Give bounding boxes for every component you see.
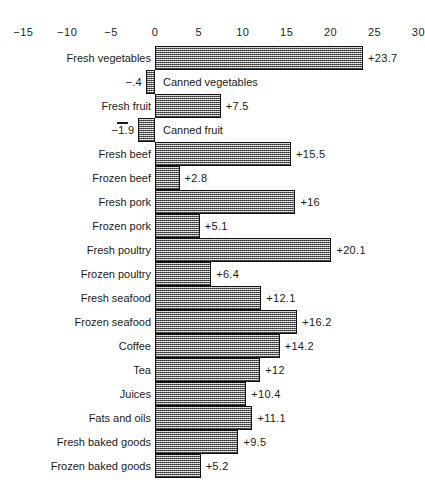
category-label: Coffee xyxy=(119,334,151,358)
value-label: +16 xyxy=(300,190,320,214)
bar xyxy=(155,358,260,382)
bar xyxy=(155,94,221,118)
value-label: +6.4 xyxy=(216,262,239,286)
bar-row: Juices+10.4 xyxy=(0,382,425,406)
x-axis-tick: 25 xyxy=(368,26,381,38)
value-label: +23.7 xyxy=(368,46,397,70)
value-label: +9.5 xyxy=(243,430,266,454)
bar xyxy=(155,166,180,190)
category-label: Fresh beef xyxy=(98,142,151,166)
bar-row: Fresh baked goods+9.5 xyxy=(0,430,425,454)
bar xyxy=(155,382,246,406)
bar-row: Coffee+14.2 xyxy=(0,334,425,358)
bar-row: Fresh poultry+20.1 xyxy=(0,238,425,262)
bar-row: Fresh seafood+12.1 xyxy=(0,286,425,310)
category-label: Frozen beef xyxy=(92,166,151,190)
category-label: Fresh baked goods xyxy=(57,430,151,454)
x-axis-tick: 15 xyxy=(280,26,293,38)
x-axis-tick: 30 xyxy=(412,26,425,38)
bar xyxy=(155,190,295,214)
bar xyxy=(155,262,211,286)
bar-row: Fresh vegetables+23.7 xyxy=(0,46,425,70)
value-label: +16.2 xyxy=(302,310,331,334)
value-label: +12 xyxy=(265,358,285,382)
x-axis-tick: −5 xyxy=(104,26,118,38)
category-label: Tea xyxy=(133,358,151,382)
category-label: Fresh fruit xyxy=(101,94,151,118)
bar xyxy=(155,310,297,334)
bar-row: Frozen seafood+16.2 xyxy=(0,310,425,334)
value-label: +11.1 xyxy=(257,406,286,430)
x-axis-tick: 20 xyxy=(324,26,337,38)
bar xyxy=(155,406,252,430)
x-axis-tick: 5 xyxy=(196,26,203,38)
x-axis: −15−10−5051015202530 xyxy=(0,0,425,44)
bar xyxy=(155,454,201,478)
category-label: Canned fruit xyxy=(163,118,223,142)
category-label: Fresh seafood xyxy=(81,286,151,310)
bar-row: Tea+12 xyxy=(0,358,425,382)
x-axis-tick: 0 xyxy=(152,26,159,38)
value-label: +14.2 xyxy=(285,334,314,358)
x-axis-tick: −15 xyxy=(13,26,33,38)
category-label: Canned vegetables xyxy=(163,70,258,94)
value-label: +5.1 xyxy=(205,214,228,238)
bar xyxy=(155,430,238,454)
value-label: +20.1 xyxy=(336,238,365,262)
bar-row: Fresh beef+15.5 xyxy=(0,142,425,166)
bar-row: Fats and oils+11.1 xyxy=(0,406,425,430)
x-axis-tick: 10 xyxy=(236,26,249,38)
plot-area: Fresh vegetables+23.7Canned vegetables−.… xyxy=(0,46,425,486)
category-label: Frozen pork xyxy=(92,214,151,238)
category-label: Frozen baked goods xyxy=(51,454,151,478)
value-label: +2.8 xyxy=(185,166,208,190)
category-label: Frozen seafood xyxy=(75,310,151,334)
value-label: +12.1 xyxy=(266,286,295,310)
value-label: +15.5 xyxy=(296,142,325,166)
category-label: Juices xyxy=(120,382,151,406)
bar xyxy=(155,214,200,238)
category-label: Fresh poultry xyxy=(87,238,151,262)
value-label: +7.5 xyxy=(226,94,249,118)
value-label: −1.9 xyxy=(111,118,134,142)
bar xyxy=(155,334,280,358)
bar-row: Frozen beef+2.8 xyxy=(0,166,425,190)
x-axis-tick: −10 xyxy=(57,26,77,38)
category-label: Frozen poultry xyxy=(81,262,151,286)
bar-row: Frozen pork+5.1 xyxy=(0,214,425,238)
bar xyxy=(155,46,363,70)
value-label: −.4 xyxy=(126,70,143,94)
bar-row: Canned fruit−1.9 xyxy=(0,118,425,142)
bar xyxy=(155,142,291,166)
bar-row: Fresh fruit+7.5 xyxy=(0,94,425,118)
bar-chart: −15−10−5051015202530 Fresh vegetables+23… xyxy=(0,0,425,500)
bar-row: Frozen baked goods+5.2 xyxy=(0,454,425,478)
bar-row: Canned vegetables−.4 xyxy=(0,70,425,94)
bar-row: Fresh pork+16 xyxy=(0,190,425,214)
bar-row: Frozen poultry+6.4 xyxy=(0,262,425,286)
value-label: +10.4 xyxy=(251,382,280,406)
bar xyxy=(155,286,261,310)
category-label: Fresh vegetables xyxy=(67,46,151,70)
value-label: +5.2 xyxy=(206,454,229,478)
bar xyxy=(155,238,331,262)
category-label: Fats and oils xyxy=(89,406,151,430)
bar xyxy=(146,70,155,94)
bar xyxy=(138,118,155,142)
category-label: Fresh pork xyxy=(98,190,151,214)
